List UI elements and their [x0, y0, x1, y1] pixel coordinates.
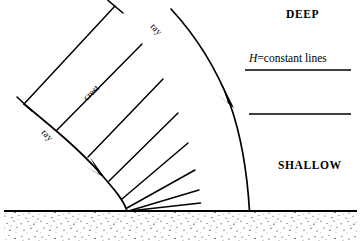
lower-ray: [24, 104, 127, 211]
crest-4: [109, 113, 178, 181]
crest-6: [127, 170, 195, 208]
crest-5: [122, 143, 188, 199]
h-constant-label: H=constant lines: [249, 53, 327, 65]
deep-label: DEEP: [286, 9, 319, 21]
diagram-canvas: [0, 0, 361, 241]
wave-refraction-figure: DEEP SHALLOW H=constant lines ray ray cr…: [0, 0, 361, 241]
upper-ray-arrowhead: [215, 84, 234, 108]
wave-crests: [24, 6, 201, 211]
upper-ray: [171, 9, 250, 211]
h-constant-text: =constant lines: [257, 52, 326, 64]
shallow-label: SHALLOW: [278, 160, 342, 172]
seabed-sand: [4, 212, 357, 241]
crest-2: [57, 44, 142, 130]
